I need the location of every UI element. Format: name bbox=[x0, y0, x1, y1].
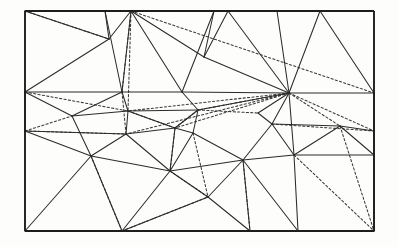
mesh-figure bbox=[0, 0, 398, 247]
figure-background bbox=[0, 0, 398, 247]
mesh-canvas bbox=[0, 0, 398, 247]
